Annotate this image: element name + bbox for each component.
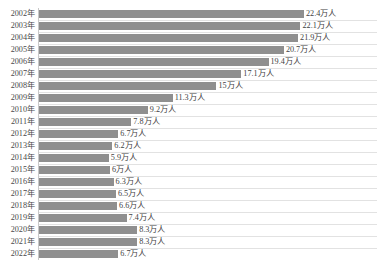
category-label: 2005年 <box>0 44 38 56</box>
bar-track: 9.2万人 <box>38 104 377 116</box>
value-label: 22.4万人 <box>304 8 336 20</box>
value-label: 7.8万人 <box>131 116 159 128</box>
bar <box>39 22 300 30</box>
value-label: 6.7万人 <box>118 128 146 140</box>
chart-row: 2003年22.1万人 <box>0 20 377 32</box>
bar-track: 8.3万人 <box>38 236 377 248</box>
bar <box>39 10 304 18</box>
category-label: 2020年 <box>0 224 38 236</box>
category-label: 2002年 <box>0 8 38 20</box>
category-label: 2013年 <box>0 140 38 152</box>
chart-row: 2022年6.7万人 <box>0 248 377 260</box>
bar-track: 5.9万人 <box>38 152 377 164</box>
bar <box>39 190 116 198</box>
category-label: 2018年 <box>0 200 38 212</box>
category-label: 2021年 <box>0 236 38 248</box>
value-label: 6.3万人 <box>114 176 142 188</box>
bar <box>39 250 118 258</box>
value-label: 19.4万人 <box>269 56 301 68</box>
category-label: 2017年 <box>0 188 38 200</box>
chart-row: 2019年7.4万人 <box>0 212 377 224</box>
bar <box>39 238 137 246</box>
bar <box>39 118 131 126</box>
bar-track: 6.7万人 <box>38 248 377 260</box>
category-label: 2004年 <box>0 32 38 44</box>
chart-row: 2007年17.1万人 <box>0 68 377 80</box>
category-label: 2006年 <box>0 56 38 68</box>
chart-row: 2006年19.4万人 <box>0 56 377 68</box>
bar-track: 8.3万人 <box>38 224 377 236</box>
bar <box>39 70 241 78</box>
bar <box>39 166 110 174</box>
value-label: 6万人 <box>110 164 132 176</box>
bar <box>39 178 114 186</box>
bar <box>39 58 269 66</box>
bar-track: 6.5万人 <box>38 188 377 200</box>
bar-track: 17.1万人 <box>38 68 377 80</box>
category-label: 2014年 <box>0 152 38 164</box>
bar <box>39 34 298 42</box>
chart-plot-area: 2002年22.4万人2003年22.1万人2004年21.9万人2005年20… <box>0 8 377 260</box>
value-label: 9.2万人 <box>148 104 176 116</box>
category-label: 2007年 <box>0 68 38 80</box>
value-label: 20.7万人 <box>284 44 316 56</box>
chart-row: 2012年6.7万人 <box>0 128 377 140</box>
bar <box>39 202 117 210</box>
bar <box>39 106 148 114</box>
bar-track: 15万人 <box>38 80 377 92</box>
value-label: 8.3万人 <box>137 224 165 236</box>
value-label: 6.6万人 <box>117 200 145 212</box>
bar-track: 19.4万人 <box>38 56 377 68</box>
value-label: 21.9万人 <box>298 32 330 44</box>
bar <box>39 46 284 54</box>
value-label: 5.9万人 <box>109 152 137 164</box>
bar-track: 20.7万人 <box>38 44 377 56</box>
bar-track: 7.4万人 <box>38 212 377 224</box>
chart-row: 2008年15万人 <box>0 80 377 92</box>
bar-chart: 2002年22.4万人2003年22.1万人2004年21.9万人2005年20… <box>0 0 377 264</box>
bar <box>39 154 109 162</box>
chart-row: 2010年9.2万人 <box>0 104 377 116</box>
category-label: 2019年 <box>0 212 38 224</box>
chart-row: 2020年8.3万人 <box>0 224 377 236</box>
category-label: 2009年 <box>0 92 38 104</box>
value-label: 11.3万人 <box>173 92 205 104</box>
chart-row: 2014年5.9万人 <box>0 152 377 164</box>
bar-track: 22.4万人 <box>38 8 377 20</box>
category-label: 2010年 <box>0 104 38 116</box>
bar-track: 6.7万人 <box>38 128 377 140</box>
bar <box>39 130 118 138</box>
chart-row: 2005年20.7万人 <box>0 44 377 56</box>
value-label: 6.7万人 <box>118 248 146 260</box>
bar-track: 21.9万人 <box>38 32 377 44</box>
chart-row: 2002年22.4万人 <box>0 8 377 20</box>
category-label: 2008年 <box>0 80 38 92</box>
value-label: 6.2万人 <box>112 140 140 152</box>
bar-track: 6.2万人 <box>38 140 377 152</box>
bar-track: 6.6万人 <box>38 200 377 212</box>
bar-track: 6.3万人 <box>38 176 377 188</box>
chart-row: 2016年6.3万人 <box>0 176 377 188</box>
category-label: 2003年 <box>0 20 38 32</box>
chart-row: 2004年21.9万人 <box>0 32 377 44</box>
value-label: 17.1万人 <box>241 68 273 80</box>
bar <box>39 142 112 150</box>
bar <box>39 82 216 90</box>
value-label: 8.3万人 <box>137 236 165 248</box>
chart-row: 2009年11.3万人 <box>0 92 377 104</box>
category-label: 2011年 <box>0 116 38 128</box>
value-label: 22.1万人 <box>300 20 332 32</box>
chart-row: 2011年7.8万人 <box>0 116 377 128</box>
bar-track: 22.1万人 <box>38 20 377 32</box>
value-label: 7.4万人 <box>127 212 155 224</box>
category-label: 2016年 <box>0 176 38 188</box>
category-label: 2015年 <box>0 164 38 176</box>
chart-row: 2017年6.5万人 <box>0 188 377 200</box>
value-label: 6.5万人 <box>116 188 144 200</box>
bar-track: 6万人 <box>38 164 377 176</box>
chart-title <box>0 0 377 2</box>
category-label: 2012年 <box>0 128 38 140</box>
bar-track: 7.8万人 <box>38 116 377 128</box>
bar <box>39 226 137 234</box>
category-label: 2022年 <box>0 248 38 260</box>
